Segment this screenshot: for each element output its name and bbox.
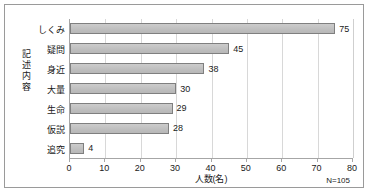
bar-value-label: 75 — [339, 24, 349, 34]
bar-row: 4 — [70, 138, 353, 158]
bar-rows: 75 45 38 30 29 — [70, 19, 353, 158]
bar-row: 30 — [70, 79, 353, 99]
bar-value-label: 29 — [177, 103, 187, 113]
y-axis-tick-label: 追究 — [33, 139, 66, 159]
bar — [70, 123, 169, 134]
x-axis-tick-mark — [175, 159, 176, 162]
bar — [70, 103, 173, 114]
bar-value-label: 28 — [173, 123, 183, 133]
x-axis-title: 人数(名) — [69, 172, 353, 185]
x-axis-ticks: 01020304050607080 — [69, 159, 353, 173]
x-axis-tick-mark — [69, 159, 70, 162]
y-axis-tick-label: 仮説 — [33, 119, 66, 139]
y-axis-category-labels: しくみ 疑問 身近 大量 生命 仮説 追究 — [33, 19, 66, 159]
gridline — [353, 19, 354, 158]
bar — [70, 83, 176, 94]
bar-value-label: 4 — [88, 143, 93, 153]
x-axis-tick-mark — [140, 159, 141, 162]
figure-frame: 記述内容 しくみ 疑問 身近 大量 生命 仮説 追究 75 45 — [4, 4, 364, 188]
bar-row: 28 — [70, 118, 353, 138]
bar-value-label: 30 — [180, 84, 190, 94]
x-axis-tick-mark — [281, 159, 282, 162]
bar-row: 75 — [70, 19, 353, 39]
bar-row: 29 — [70, 98, 353, 118]
y-axis-title: 記述内容 — [19, 49, 33, 93]
sample-size-annotation: N=105 — [326, 176, 350, 185]
bar-row: 38 — [70, 59, 353, 79]
bar — [70, 143, 84, 154]
x-axis-tick-mark — [246, 159, 247, 162]
bar — [70, 23, 335, 34]
chart-screenshot: 記述内容 しくみ 疑問 身近 大量 生命 仮説 追究 75 45 — [0, 0, 370, 194]
bar-value-label: 38 — [208, 64, 218, 74]
bar — [70, 63, 204, 74]
y-axis-tick-label: 大量 — [33, 79, 66, 99]
x-axis-tick-mark — [352, 159, 353, 162]
x-axis-tick-mark — [211, 159, 212, 162]
bar — [70, 43, 229, 54]
y-axis-tick-label: 身近 — [33, 59, 66, 79]
bar-row: 45 — [70, 39, 353, 59]
bar-value-label: 45 — [233, 44, 243, 54]
y-axis-tick-label: 生命 — [33, 99, 66, 119]
x-axis-tick-mark — [317, 159, 318, 162]
y-axis-tick-label: 疑問 — [33, 39, 66, 59]
x-axis-tick-mark — [104, 159, 105, 162]
y-axis-tick-label: しくみ — [33, 19, 66, 39]
plot-area: 75 45 38 30 29 — [69, 19, 353, 159]
